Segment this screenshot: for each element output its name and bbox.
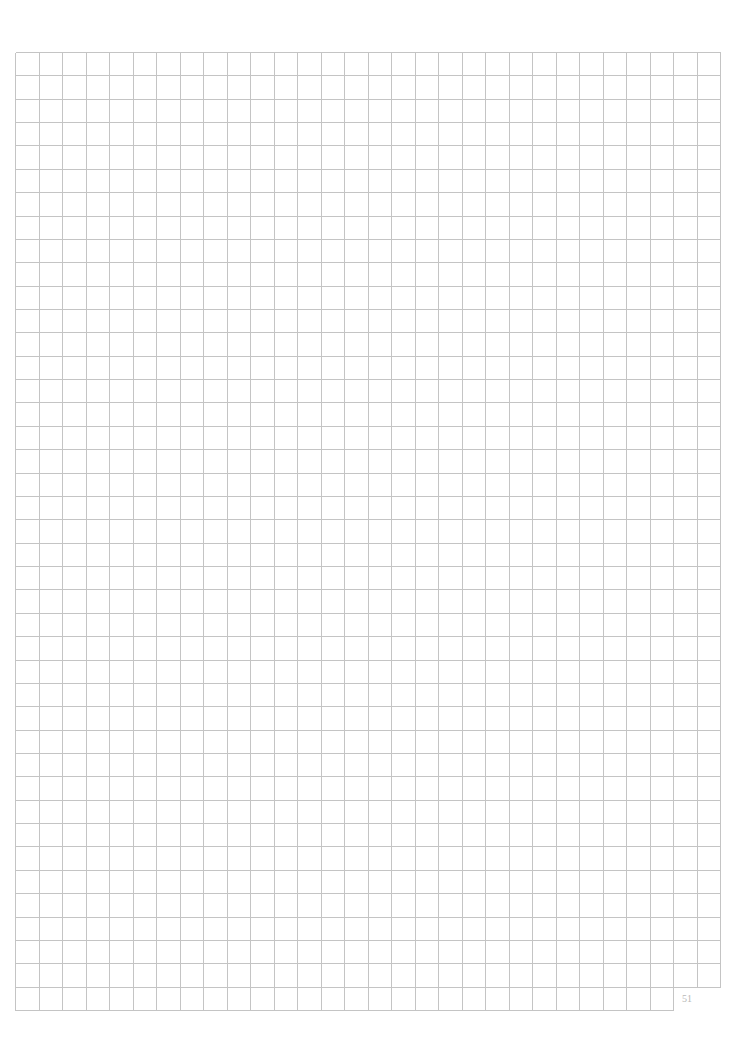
graph-paper-grid [0, 0, 754, 1056]
page-number: 51 [682, 993, 692, 1004]
